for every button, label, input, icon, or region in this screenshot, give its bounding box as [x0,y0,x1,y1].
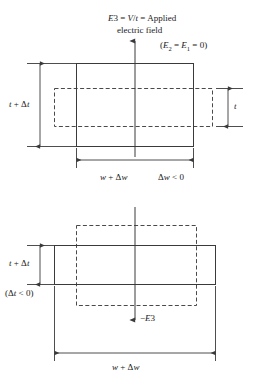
bottom-panel-graphics [27,207,216,361]
top-width-label: w + Δw [100,172,127,183]
top-panel-graphics [27,41,243,168]
field-title-line1: E3 = V/t = Applied [108,13,248,24]
top-undeformed-outline [55,89,213,127]
top-inner-height-label: t [234,101,237,112]
bottom-height-note: (Δt < 0) [5,288,33,299]
piezoelectric-deformation-figure: E3 = V/t = Applied electric field (E2 = … [0,0,255,382]
diagram-canvas [0,0,255,382]
bottom-field-arrow-label: −E3 [140,313,155,324]
top-height-label: t + Δt [9,99,29,110]
top-width-note: Δw < 0 [158,172,184,183]
bottom-undeformed-outline [77,226,197,306]
field-zero-note: (E2 = E1 = 0) [160,40,207,53]
field-title-line2: electric field [117,25,162,36]
bottom-width-label: w + Δw [112,362,139,373]
bottom-height-label: t + Δt [9,258,29,269]
